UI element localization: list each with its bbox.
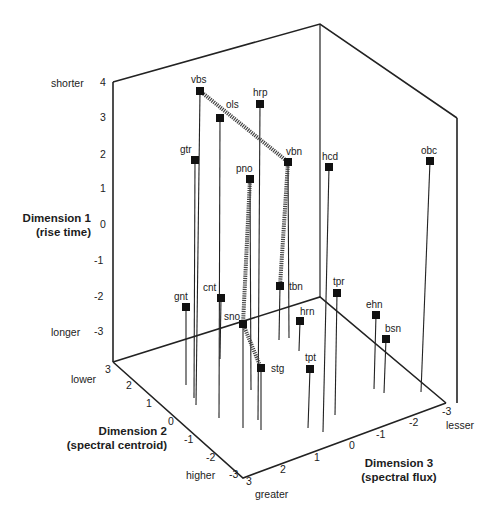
dim1-tick: 0 [100,219,106,230]
marker-tbn[interactable] [276,282,284,290]
marker-hrn[interactable] [296,317,304,325]
dim1-axis-title: Dimension 1 (rise time) [17,211,91,239]
dim1-tick: 4 [100,77,106,88]
marker-vbs[interactable] [196,87,204,95]
dim1-tick: -2 [94,291,103,302]
dim2-tick: 0 [168,416,174,427]
marker-obc[interactable] [426,157,434,165]
point-label-hcd: hcd [322,152,338,162]
dim2-title: Dimension 2 [56,424,167,438]
dim1-low-label: longer [51,327,80,338]
marker-gtr[interactable] [191,156,199,164]
dim3-tick: -2 [409,417,418,428]
marker-bsn[interactable] [382,335,390,343]
marker-tpt[interactable] [306,365,314,373]
dim1-tick: 2 [100,149,106,160]
dim3-axis-title: Dimension 3 (spectral flux) [356,456,442,484]
dim3-tick: 1 [314,452,320,463]
point-label-bsn: bsn [385,324,401,334]
dim3-tick: 3 [246,476,252,487]
marker-tpr[interactable] [333,289,341,297]
point-label-ols: ols [226,100,239,110]
dim1-tick: 3 [100,112,106,123]
dim3-tick: 2 [280,464,286,475]
point-label-cnt: cnt [203,283,216,293]
marker-gnt[interactable] [182,303,190,311]
point-label-ehn: ehn [366,300,383,310]
marker-sno[interactable] [239,320,247,328]
dim3-tick: -3 [442,406,451,417]
marker-hcd[interactable] [325,163,333,171]
point-label-tpr: tpr [333,277,345,287]
dim2-tick: -2 [206,452,215,463]
dim3-low-label: lesser [446,420,474,431]
point-label-vbs: vbs [191,75,207,85]
dim2-tick: 2 [126,380,132,391]
point-stems [186,91,430,432]
dim1-tick: 1 [100,183,106,194]
point-label-obc: obc [421,146,437,156]
point-label-hrn: hrn [300,307,314,317]
point-label-gnt: gnt [174,292,188,302]
dim2-tick: -1 [184,434,193,445]
point-label-hrp: hrp [253,88,267,98]
point-label-gtr: gtr [180,145,192,155]
dim2-tick: -3 [229,469,238,480]
dim1-tick: -3 [94,326,103,337]
dim2-low-label: higher [186,470,215,481]
dim1-title: Dimension 1 [17,211,91,225]
dim1-tick: -1 [94,255,103,266]
point-label-tbn: tbn [289,282,303,292]
dim3-tick: -1 [376,429,385,440]
point-label-sno: sno [224,312,240,322]
dim2-tick: 1 [146,398,152,409]
marker-hrp[interactable] [256,100,264,108]
dim3-tick: 0 [349,440,355,451]
dim1-high-label: shorter [51,78,84,89]
dim2-subtitle: (spectral centroid) [56,438,167,452]
dim1-subtitle: (rise time) [17,225,91,239]
point-label-pno: pno [236,164,253,174]
dim3-title: Dimension 3 [356,456,442,470]
marker-stg[interactable] [257,364,265,372]
dim2-high-label: lower [71,374,96,385]
marker-pno[interactable] [246,175,254,183]
marker-ols[interactable] [216,114,224,122]
marker-vbn[interactable] [284,158,292,166]
point-label-vbn: vbn [286,147,302,157]
dim3-high-label: greater [255,489,288,500]
dim2-tick: 3 [105,364,111,375]
marker-cnt[interactable] [217,294,225,302]
point-label-stg: stg [271,364,284,374]
point-label-tpt: tpt [305,353,316,363]
dim2-axis-title: Dimension 2 (spectral centroid) [56,424,167,452]
marker-ehn[interactable] [372,311,380,319]
plot-frame [113,24,457,478]
dim3-subtitle: (spectral flux) [356,470,442,484]
